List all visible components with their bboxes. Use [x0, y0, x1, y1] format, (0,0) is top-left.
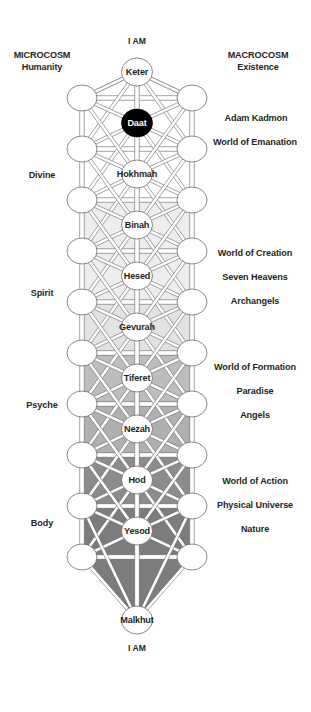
label-line: Seven Heavens: [201, 272, 309, 284]
label-adam-kadmon: Adam Kadmon: [206, 113, 306, 125]
node-label-daat: Daat: [127, 118, 146, 128]
side-node-left-7: [67, 442, 97, 468]
label-line: World of Emanation: [201, 137, 309, 149]
node-label-tiferet: Tiferet: [124, 373, 151, 383]
label-line: Physical Universe: [201, 500, 309, 512]
side-node-left-9: [67, 544, 97, 570]
node-label-hod: Hod: [128, 475, 145, 485]
side-node-left-1: [67, 136, 97, 162]
node-label-keter: Keter: [126, 67, 149, 77]
side-node-left-5: [67, 340, 97, 366]
side-node-left-8: [67, 493, 97, 519]
label-world-of-formation: World of Formation: [201, 362, 309, 374]
label-line: Spirit: [8, 288, 76, 300]
side-node-right-0: [177, 85, 207, 111]
label-line: Paradise: [201, 386, 309, 398]
label-nature: Nature: [201, 524, 309, 536]
label-line: Body: [8, 518, 76, 530]
node-label-hesed: Hesed: [124, 271, 151, 281]
label-seven-heavens: Seven Heavens: [201, 272, 309, 284]
label-line: Nature: [201, 524, 309, 536]
side-node-right-2: [177, 187, 207, 213]
label-line: Existence: [212, 62, 304, 74]
node-label-yesod: Yesod: [124, 526, 150, 536]
node-label-gevurah: Gevurah: [119, 322, 155, 332]
tree-of-life-diagram: KeterDaatHokhmahBinahHesedGevurahTiferet…: [0, 0, 311, 712]
label-angels: Angels: [201, 410, 309, 422]
side-node-right-7: [177, 442, 207, 468]
label-body: Body: [8, 518, 76, 530]
label-line: World of Action: [201, 476, 309, 488]
side-node-left-0: [67, 85, 97, 111]
node-label-binah: Binah: [125, 220, 150, 230]
label-line: Adam Kadmon: [206, 113, 306, 125]
apex-bottom-label: I AM: [128, 643, 146, 653]
label-line: Humanity: [8, 62, 76, 74]
side-node-right-9: [177, 544, 207, 570]
label-line: Angels: [201, 410, 309, 422]
label-archangels: Archangels: [201, 296, 309, 308]
label-line: MACROCOSM: [212, 50, 304, 62]
tree-of-life-svg: KeterDaatHokhmahBinahHesedGevurahTiferet…: [0, 0, 311, 712]
label-macrocosm: MACROCOSMExistence: [212, 50, 304, 73]
label-paradise: Paradise: [201, 386, 309, 398]
node-label-malkhut: Malkhut: [120, 615, 153, 625]
label-line: Divine: [8, 170, 76, 182]
label-psyche: Psyche: [8, 400, 76, 412]
label-spirit: Spirit: [8, 288, 76, 300]
label-line: MICROCOSM: [8, 50, 76, 62]
label-physical-universe: Physical Universe: [201, 500, 309, 512]
label-world-of-action: World of Action: [201, 476, 309, 488]
label-line: World of Formation: [201, 362, 309, 374]
apex-top-label: I AM: [128, 36, 146, 46]
label-line: Psyche: [8, 400, 76, 412]
label-line: World of Creation: [201, 248, 309, 260]
side-node-left-2: [67, 187, 97, 213]
label-microcosm: MICROCOSMHumanity: [8, 50, 76, 73]
label-line: Archangels: [201, 296, 309, 308]
node-label-nezah: Nezah: [124, 424, 150, 434]
label-world-of-creation: World of Creation: [201, 248, 309, 260]
label-divine: Divine: [8, 170, 76, 182]
label-world-of-emanation: World of Emanation: [201, 137, 309, 149]
node-label-hokhmah: Hokhmah: [117, 169, 157, 179]
side-node-left-3: [67, 238, 97, 264]
